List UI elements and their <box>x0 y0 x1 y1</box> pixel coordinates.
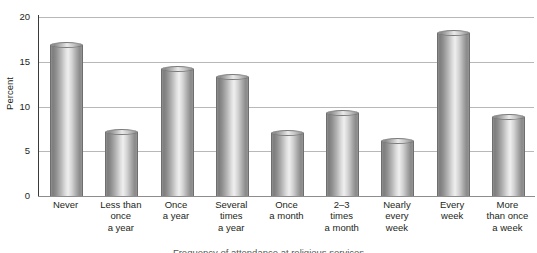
x-category-label-line: week <box>425 210 480 221</box>
bar-chart-figure: Percent 05101520 NeverLess thanoncea yea… <box>0 0 537 253</box>
x-category-label-line: a month <box>259 210 314 221</box>
bar-top-cap <box>271 130 304 136</box>
bar-column <box>50 17 81 196</box>
bar <box>271 133 304 196</box>
bar <box>161 69 194 196</box>
bar-top-cap <box>50 42 83 48</box>
bar-top-cap <box>492 114 525 120</box>
y-tick-label-20: 20 <box>19 12 30 22</box>
x-category-label-line: times <box>204 210 259 221</box>
bar <box>492 117 525 196</box>
x-category-label: Oncea month <box>259 199 314 222</box>
x-axis-category-labels: NeverLess thanoncea yearOncea yearSevera… <box>38 199 535 245</box>
figure-caption-text: Frequency of attendance at religious ser… <box>0 247 537 253</box>
bar-top-cap <box>326 110 359 116</box>
bar-top-cap <box>161 66 194 72</box>
x-category-label-line: Never <box>38 199 93 210</box>
x-category-label: Less thanoncea year <box>93 199 148 233</box>
x-category-label-line: a year <box>204 222 259 233</box>
bar-top-cap <box>437 30 470 36</box>
x-category-label-line: Once <box>259 199 314 210</box>
bar-column <box>271 17 302 196</box>
x-category-label-line: More <box>480 199 535 210</box>
x-category-label: Morethan oncea week <box>480 199 535 233</box>
bar-column <box>216 17 247 196</box>
bar-column <box>437 17 468 196</box>
bar <box>105 132 138 196</box>
bar-column <box>326 17 357 196</box>
x-category-label-line: times <box>314 210 369 221</box>
x-category-label-line: 2–3 <box>314 199 369 210</box>
x-category-label: Nearlyeveryweek <box>369 199 424 233</box>
bar <box>216 77 249 196</box>
x-category-label: 2–3timesa month <box>314 199 369 233</box>
x-category-label-line: a year <box>148 210 203 221</box>
bar-column <box>492 17 523 196</box>
x-category-label-line: a week <box>480 222 535 233</box>
y-tick-label-15: 15 <box>19 57 30 67</box>
x-category-label: Oncea year <box>148 199 203 222</box>
x-category-label-line: Less than <box>93 199 148 210</box>
x-axis-line <box>38 196 535 197</box>
bar-top-cap <box>216 74 249 80</box>
x-category-label: Severaltimesa year <box>204 199 259 233</box>
x-category-label-line: week <box>369 222 424 233</box>
y-axis-tick-labels: 05101520 <box>0 0 34 253</box>
bar <box>381 141 414 196</box>
x-category-label-line: a month <box>314 222 369 233</box>
bar <box>326 113 359 196</box>
bar-column <box>105 17 136 196</box>
bar <box>50 45 83 196</box>
figure-caption-clipped: Frequency of attendance at religious ser… <box>0 247 537 253</box>
bar-series <box>38 17 535 196</box>
x-category-label-line: a year <box>93 222 148 233</box>
y-tick-label-10: 10 <box>19 102 30 112</box>
x-category-label: Never <box>38 199 93 210</box>
bar-column <box>381 17 412 196</box>
x-category-label-line: every <box>369 210 424 221</box>
bar-column <box>161 17 192 196</box>
bar-top-cap <box>381 138 414 144</box>
x-category-label-line: Every <box>425 199 480 210</box>
x-category-label-line: than once <box>480 210 535 221</box>
y-tick-label-0: 0 <box>25 191 30 201</box>
x-category-label-line: Once <box>148 199 203 210</box>
bar-top-cap <box>105 129 138 135</box>
x-category-label-line: Nearly <box>369 199 424 210</box>
x-category-label-line: Several <box>204 199 259 210</box>
x-category-label-line: once <box>93 210 148 221</box>
y-tick-label-5: 5 <box>25 146 30 156</box>
bar <box>437 33 470 196</box>
x-category-label: Everyweek <box>425 199 480 222</box>
